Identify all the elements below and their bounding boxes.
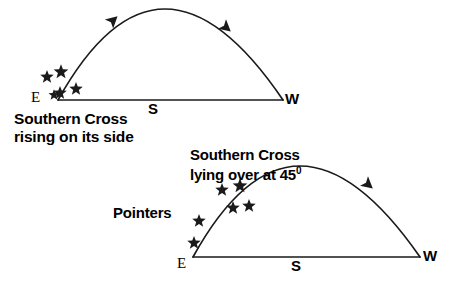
- upper-direction-south: S: [148, 101, 158, 118]
- upper-arrowhead-1: [105, 12, 122, 29]
- lower-direction-south: S: [291, 258, 301, 275]
- lower-pointer-star-1: [192, 214, 206, 227]
- diagram-canvas: E S W Southern Cross rising on its side …: [0, 0, 456, 290]
- upper-star-4: [69, 82, 83, 95]
- lower-arrowhead-1: [360, 176, 377, 193]
- lower-cross-star-1: [215, 183, 229, 196]
- upper-star-1: [40, 70, 54, 83]
- upper-motion-arrow-2: [218, 19, 235, 36]
- lower-caption-line2: lying over at 450: [190, 165, 301, 184]
- pointers-label: Pointers: [113, 205, 171, 222]
- lower-motion-arrow-1: [360, 176, 377, 193]
- upper-celestial-arc: [58, 9, 283, 100]
- lower-caption-line1: Southern Cross: [190, 147, 300, 164]
- upper-direction-east: E: [31, 89, 40, 106]
- upper-caption-line1: Southern Cross: [14, 110, 127, 127]
- lower-direction-east: E: [177, 255, 186, 272]
- lower-cross-star-3: [226, 201, 240, 214]
- upper-motion-arrow-1: [105, 12, 122, 29]
- upper-star-2: [54, 64, 69, 78]
- lower-direction-west: W: [423, 248, 437, 265]
- upper-caption-line2: rising on its side: [14, 128, 134, 145]
- degree-superscript: 0: [296, 165, 301, 176]
- lower-cross-star-4: [242, 199, 256, 212]
- upper-direction-west: W: [285, 91, 299, 108]
- lower-caption-text: lying over at 45: [190, 166, 296, 183]
- upper-arrowhead-2: [218, 19, 235, 36]
